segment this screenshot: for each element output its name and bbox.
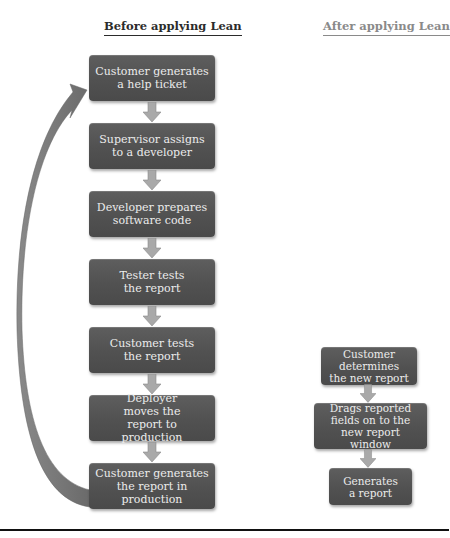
before-step-2: Supervisor assigns to a developer [89,123,215,169]
after-step-1: Customer determines the new report [321,347,417,385]
down-arrow-icon [143,238,161,258]
down-arrow-icon [143,442,161,462]
before-step-1: Customer generates a help ticket [89,55,215,101]
after-step-2: Drags reported fields on to the new repo… [314,403,427,449]
bottom-rule [0,529,449,531]
step-label: Customer determines the new report [329,348,409,384]
down-arrow-icon [143,170,161,190]
down-arrow-icon [143,306,161,326]
before-step-5: Customer tests the report [89,327,215,373]
down-arrow-icon [143,102,161,122]
step-label: Generates a report [339,475,402,499]
before-step-3: Developer prepares software code [89,191,215,237]
step-label: Developer prepares software code [95,201,209,227]
step-label: Supervisor assigns to a developer [95,133,209,159]
down-arrow-icon [360,449,376,468]
down-arrow-icon [360,384,376,403]
before-step-6: Deployer moves the report to production [89,395,215,441]
step-label: Customer tests the report [103,337,201,363]
step-label: Deployer moves the report to production [109,392,195,444]
step-label: Customer generates the report in product… [95,467,209,506]
after-step-3: Generates a report [329,468,412,505]
step-label: Customer generates a help ticket [95,65,209,91]
down-arrow-icon [143,374,161,394]
step-label: Drags reported fields on to the new repo… [320,402,421,450]
before-step-7: Customer generates the report in product… [89,463,215,509]
step-label: Tester tests the report [111,269,193,295]
before-step-4: Tester tests the report [89,259,215,305]
